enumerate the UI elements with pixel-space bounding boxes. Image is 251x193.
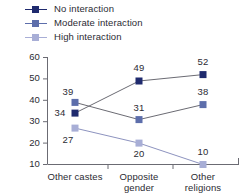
y-tick-label-30: 30	[18, 116, 40, 126]
value-label-moderate-0: 39	[55, 87, 81, 97]
x-tick-label-other-religions-line2: religions	[161, 182, 245, 193]
y-tick-label-50: 50	[18, 73, 40, 83]
data-point-high-0	[72, 125, 79, 132]
chart-legend: No interaction Moderate interaction High…	[25, 2, 225, 44]
value-label-no-1: 49	[126, 63, 152, 73]
legend-label-moderate-interaction: Moderate interaction	[54, 17, 143, 29]
value-label-high-2: 10	[190, 147, 216, 157]
legend-square-marker-icon	[32, 34, 39, 41]
value-label-no-0: 34	[47, 108, 73, 118]
x-tick-label-other-religions-line1: Other	[161, 171, 245, 182]
y-tick-label-60: 60	[18, 52, 40, 62]
legend-square-marker-icon	[32, 6, 39, 13]
legend-label-no-interaction: No interaction	[54, 3, 114, 15]
plot-area: 60 50 40 30 20 10 Other castes Opposite …	[0, 50, 251, 193]
legend-square-marker-icon	[32, 20, 39, 27]
value-label-moderate-1: 31	[126, 103, 152, 113]
legend-swatch-high-interaction	[25, 31, 47, 43]
value-label-moderate-2: 38	[190, 87, 216, 97]
data-point-high-1	[136, 140, 143, 147]
data-point-moderate-2	[200, 101, 207, 108]
y-tick-label-10: 10	[18, 159, 40, 169]
y-tick-label-40: 40	[18, 95, 40, 105]
legend-label-high-interaction: High interaction	[54, 31, 122, 43]
value-label-high-1: 20	[126, 149, 152, 159]
chart-container: No interaction Moderate interaction High…	[0, 0, 251, 193]
legend-swatch-no-interaction	[25, 3, 47, 15]
data-point-moderate-1	[136, 116, 143, 123]
legend-item-high-interaction: High interaction	[25, 30, 225, 44]
data-point-no-2	[200, 71, 207, 78]
data-point-no-1	[136, 78, 143, 85]
legend-item-no-interaction: No interaction	[25, 2, 225, 16]
data-point-moderate-0	[72, 99, 79, 106]
legend-swatch-moderate-interaction	[25, 17, 47, 29]
data-point-high-2	[200, 161, 207, 168]
value-label-high-0: 27	[55, 135, 81, 145]
legend-item-moderate-interaction: Moderate interaction	[25, 16, 225, 30]
y-tick-label-20: 20	[18, 138, 40, 148]
value-label-no-2: 52	[190, 57, 216, 67]
